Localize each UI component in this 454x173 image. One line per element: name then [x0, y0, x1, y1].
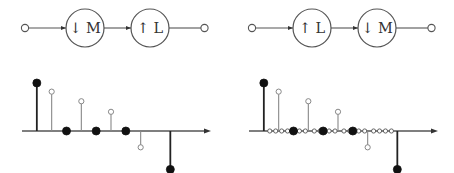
stem-marker-open [108, 109, 113, 114]
stem-marker-filled [349, 127, 357, 135]
stem-marker-filled [319, 127, 327, 135]
block-1-label: ↑ L [299, 20, 326, 36]
stem-zero-marker [363, 129, 367, 133]
stem-marker-filled [33, 79, 41, 87]
panel-right-canvas: ↑ L ↓ M [227, 0, 454, 173]
block-diagram-left: ↓ M ↑ L [21, 9, 208, 47]
stem-marker-open [306, 99, 311, 104]
output-terminal-icon [428, 24, 435, 31]
panel-interpolate-then-decimate: ↑ L ↓ M [227, 0, 454, 173]
stem-marker-open [138, 145, 143, 150]
stem-zero-marker [372, 129, 376, 133]
stem-zero-marker [297, 129, 301, 133]
x-axis-arrowhead-icon [431, 128, 438, 133]
stem-marker-open [335, 109, 340, 114]
stem-plot-left [22, 79, 211, 173]
block-2-label: ↑ L [137, 20, 164, 36]
stem-plot-right [249, 79, 438, 173]
output-terminal-icon [201, 24, 208, 31]
stem-marker-open [276, 89, 281, 94]
stem-series-right [260, 79, 402, 173]
stem-series-left [33, 79, 175, 173]
stem-zero-marker [389, 129, 393, 133]
stem-zero-marker [274, 129, 278, 133]
stem-zero-marker [303, 129, 307, 133]
arrowhead-into-block2-icon [353, 26, 358, 30]
stem-marker-filled [92, 127, 100, 135]
stem-marker-open [365, 145, 370, 150]
x-axis-arrowhead-icon [204, 128, 211, 133]
arrowhead-into-block1-icon [288, 26, 293, 30]
stem-marker-filled [166, 165, 174, 173]
stem-zero-marker [383, 129, 387, 133]
stem-zero-marker [377, 129, 381, 133]
stem-marker-filled [260, 79, 268, 87]
block-2-label: ↓ M [361, 20, 393, 36]
stem-marker-filled [290, 127, 298, 135]
stem-zero-marker [268, 129, 272, 133]
arrowhead-into-block2-icon [126, 26, 131, 30]
stem-zero-marker [285, 129, 289, 133]
stem-zero-marker [342, 129, 346, 133]
stem-marker-open [79, 99, 84, 104]
stem-zero-marker [280, 129, 284, 133]
stem-marker-filled [63, 127, 71, 135]
stem-zero-marker [312, 129, 316, 133]
panel-left-canvas: ↓ M ↑ L [0, 0, 227, 173]
input-terminal-icon [21, 24, 28, 31]
stem-marker-filled [122, 127, 130, 135]
stem-marker-filled [393, 165, 401, 173]
stem-zero-marker [357, 129, 361, 133]
stem-zero-marker [333, 129, 337, 133]
arrowhead-into-block1-icon [61, 26, 66, 30]
input-terminal-icon [248, 24, 255, 31]
block-diagram-right: ↑ L ↓ M [248, 9, 435, 47]
stem-zero-marker [327, 129, 331, 133]
block-1-label: ↓ M [69, 20, 101, 36]
panel-decimate-then-interpolate: ↓ M ↑ L [0, 0, 227, 173]
stem-marker-open [49, 89, 54, 94]
figure-root: ↓ M ↑ L [0, 0, 454, 173]
